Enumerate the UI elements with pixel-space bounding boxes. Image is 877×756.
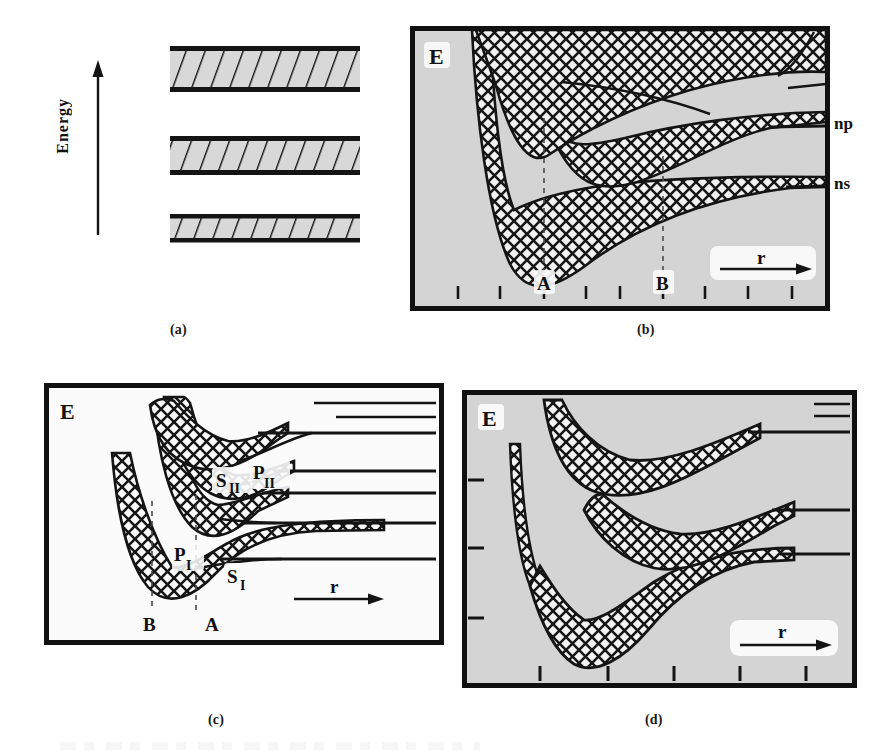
caption-d: (d) <box>645 712 663 728</box>
panel-c-marker-b: B <box>143 614 156 635</box>
panel-b-marker-a: A <box>537 273 551 294</box>
panel-c-svg: r E S II P II P I <box>44 383 444 645</box>
caption-a: (a) <box>170 322 187 338</box>
panel-c-label-p1-sub: I <box>186 558 191 573</box>
panel-a-svg <box>60 30 390 280</box>
band-middle <box>170 136 360 175</box>
panel-c-label-s2-base: S <box>216 470 227 491</box>
panel-b-marker-b: B <box>656 273 669 294</box>
panel-d: r E <box>462 390 857 688</box>
panel-d-x-axis-label: r <box>778 621 787 642</box>
energy-axis-label: Energy <box>54 98 72 154</box>
band-upper <box>170 46 360 92</box>
panel-b-y-axis-label: E <box>429 44 444 69</box>
panel-b: E r A B np ns <box>410 26 830 311</box>
caption-c: (c) <box>208 712 224 728</box>
panel-c-label-p2-sub: II <box>264 476 275 491</box>
panel-c-y-axis-label: E <box>60 399 75 424</box>
panel-c-x-axis-label: r <box>330 576 339 597</box>
panel-b-label-ns: ns <box>834 174 850 194</box>
panel-a: Energy <box>60 30 390 280</box>
panel-c-label-s2-sub: II <box>229 481 240 496</box>
caption-b: (b) <box>637 322 655 338</box>
panel-b-x-axis-label: r <box>757 247 766 268</box>
bottom-text-fragment <box>60 742 480 750</box>
band-lower <box>170 214 360 243</box>
panel-c-label-p1-base: P <box>174 544 186 565</box>
label-p1: P I <box>172 541 204 573</box>
panel-d-svg: r E <box>462 390 857 688</box>
panel-c-label-s1-base: S <box>227 566 238 587</box>
panel-c: r E S II P II P I <box>44 383 444 645</box>
panel-d-y-axis-label: E <box>482 406 497 431</box>
panel-c-marker-a: A <box>205 614 219 635</box>
energy-arrow <box>93 60 104 235</box>
label-p2: P II <box>250 459 290 491</box>
asymptote-ns <box>786 186 826 187</box>
panel-b-label-np: np <box>834 114 853 134</box>
panel-b-svg: E r A B <box>410 26 830 311</box>
figure-root: Energy (a) <box>0 0 877 756</box>
label-s2: S II <box>212 467 252 496</box>
label-s1: S I <box>224 563 258 593</box>
panel-c-label-s1-sub: I <box>240 578 245 593</box>
asymptote-np <box>770 126 826 127</box>
